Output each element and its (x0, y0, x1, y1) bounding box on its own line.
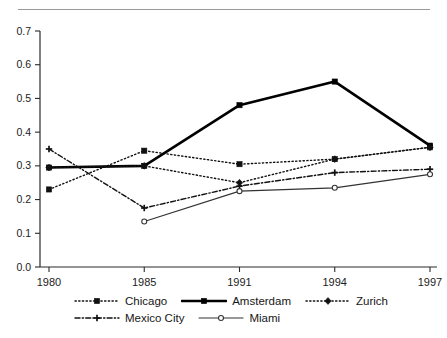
data-point-marker (202, 298, 207, 303)
legend-item-zurich[interactable]: Zurich (305, 292, 402, 309)
data-point-marker (332, 79, 337, 84)
legend-item-miami[interactable]: Miami (198, 309, 294, 326)
legend-row: ChicagoAmsterdamZurich (0, 292, 447, 309)
x-axis-tick-label: 1980 (37, 276, 61, 288)
data-point-marker (428, 172, 433, 177)
legend-line-swatch (305, 295, 351, 307)
y-axis-tick-label: 0.0 (16, 261, 31, 273)
legend-item-label: Zurich (356, 295, 402, 307)
x-axis-tick-label: 1997 (418, 276, 442, 288)
legend-item-label: Amsterdam (232, 295, 305, 307)
x-axis-tick-label: 1994 (323, 276, 347, 288)
data-point-marker (325, 297, 331, 304)
data-point-marker (142, 219, 147, 224)
y-axis-tick-label: 0.7 (16, 25, 31, 37)
legend-item-label: Miami (249, 312, 294, 324)
series-line (144, 174, 430, 221)
data-point-marker (142, 148, 147, 153)
y-axis-tick-label: 0.3 (16, 159, 31, 171)
y-axis-tick-label: 0.2 (16, 193, 31, 205)
data-point-marker (219, 315, 224, 320)
data-point-marker (94, 298, 99, 303)
legend-line-swatch (74, 312, 120, 324)
legend-item-chicago[interactable]: Chicago (74, 292, 181, 309)
y-axis-tick-label: 0.4 (16, 126, 31, 138)
data-point-marker (332, 185, 337, 190)
legend-line-swatch (198, 312, 244, 324)
data-point-marker (237, 162, 242, 167)
legend-item-amsterdam[interactable]: Amsterdam (181, 292, 305, 309)
x-axis-tick-label: 1991 (227, 276, 251, 288)
y-axis-tick-label: 0.1 (16, 227, 31, 239)
data-point-marker (237, 103, 242, 108)
legend-row: Mexico CityMiami (0, 309, 447, 326)
x-axis-tick-label: 1985 (132, 276, 156, 288)
y-axis-tick-label: 0.6 (16, 58, 31, 70)
legend-item-mexico-city[interactable]: Mexico City (74, 309, 198, 326)
chart-figure: 0.00.10.20.30.40.50.60.71980198519911994… (0, 0, 447, 338)
chart-legend: ChicagoAmsterdamZurichMexico CityMiami (0, 292, 447, 326)
legend-line-swatch (181, 295, 227, 307)
series-mexico-city (46, 146, 433, 211)
series-line (49, 149, 430, 208)
data-point-marker (237, 189, 242, 194)
legend-item-label: Mexico City (125, 312, 198, 324)
line-chart-plot: 0.00.10.20.30.40.50.60.71980198519911994… (0, 0, 447, 292)
y-axis-tick-label: 0.5 (16, 92, 31, 104)
legend-line-swatch (74, 295, 120, 307)
data-point-marker (46, 187, 51, 192)
legend-item-label: Chicago (125, 295, 181, 307)
series-amsterdam (46, 79, 432, 170)
